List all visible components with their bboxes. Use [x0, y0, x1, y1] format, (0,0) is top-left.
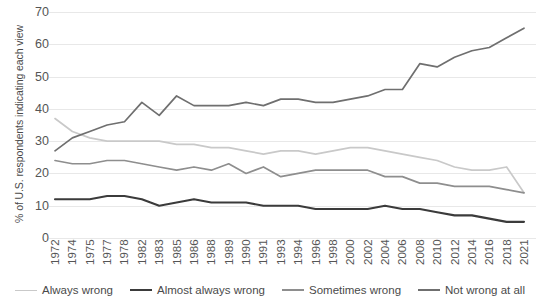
series-line-sometimes-wrong: [55, 161, 524, 193]
x-axis-tick-label: 1977: [100, 229, 114, 265]
x-axis-tick-label: 2002: [361, 229, 375, 265]
x-axis-tick-label: 1986: [187, 229, 201, 265]
legend-line-swatch: [15, 290, 37, 291]
y-axis-tick-label: 50: [23, 71, 49, 83]
legend-item[interactable]: Not wrong at all: [418, 284, 525, 296]
x-axis-tick-label: 1993: [274, 229, 288, 265]
x-axis-tick-label: 1996: [309, 229, 323, 265]
x-axis-tick-label: 1975: [83, 229, 97, 265]
x-axis-tick-label: 1990: [239, 229, 253, 265]
y-axis-tick-labels: 010203040506070: [20, 0, 49, 304]
legend-line-swatch: [418, 289, 440, 291]
y-axis-tick-label: 20: [23, 167, 49, 179]
x-axis-tick-label: 2000: [343, 229, 357, 265]
x-axis-tick-label: 1988: [204, 229, 218, 265]
legend-label: Almost always wrong: [157, 284, 265, 296]
x-axis-tick-label: 2012: [448, 229, 462, 265]
y-axis-tick-label: 10: [23, 200, 49, 212]
x-axis-tick-label: 1994: [291, 229, 305, 265]
legend-line-swatch: [282, 289, 304, 291]
x-axis-tick-label: 1991: [256, 229, 270, 265]
legend-label: Not wrong at all: [445, 284, 525, 296]
series-line-not-wrong-at-all: [55, 28, 524, 151]
x-axis-tick-label: 1983: [152, 229, 166, 265]
legend-label: Sometimes wrong: [309, 284, 401, 296]
y-axis-tick-label: 0: [23, 232, 49, 244]
line-chart: % of U.S. respondents indicating each vi…: [0, 0, 540, 304]
x-axis-tick-label: 2006: [395, 229, 409, 265]
series-line-almost-always-wrong: [55, 196, 524, 222]
x-axis-tick-label: 2018: [500, 229, 514, 265]
x-axis-tick-label: 2014: [465, 229, 479, 265]
x-axis-tick-label: 1978: [117, 229, 131, 265]
y-axis-tick-label: 40: [23, 103, 49, 115]
legend-line-swatch: [130, 289, 152, 291]
y-axis-tick-label: 70: [23, 6, 49, 18]
x-axis-tick-label: 2008: [413, 229, 427, 265]
legend-item[interactable]: Always wrong: [15, 284, 113, 296]
x-axis-tick-labels: 1972197419751977197819821983198519861988…: [49, 240, 536, 276]
chart-legend: Always wrongAlmost always wrongSometimes…: [0, 280, 540, 300]
plot-area: [49, 12, 536, 238]
x-axis-tick-label: 2016: [482, 229, 496, 265]
series-line-always-wrong: [55, 119, 524, 193]
legend-item[interactable]: Almost always wrong: [130, 284, 265, 296]
x-axis-tick-label: 1998: [326, 229, 340, 265]
series-lines: [49, 12, 536, 238]
x-axis-tick-label: 1985: [170, 229, 184, 265]
x-axis-tick-label: 1989: [222, 229, 236, 265]
legend-item[interactable]: Sometimes wrong: [282, 284, 401, 296]
x-axis-tick-label: 2004: [378, 229, 392, 265]
x-axis-tick-label: 1972: [48, 229, 62, 265]
y-axis-tick-label: 30: [23, 135, 49, 147]
x-axis-tick-label: 1974: [65, 229, 79, 265]
y-axis-tick-label: 60: [23, 38, 49, 50]
x-axis-tick-label: 2010: [430, 229, 444, 265]
x-axis-tick-label: 2021: [517, 229, 531, 265]
x-axis-tick-label: 1982: [135, 229, 149, 265]
legend-label: Always wrong: [42, 284, 113, 296]
